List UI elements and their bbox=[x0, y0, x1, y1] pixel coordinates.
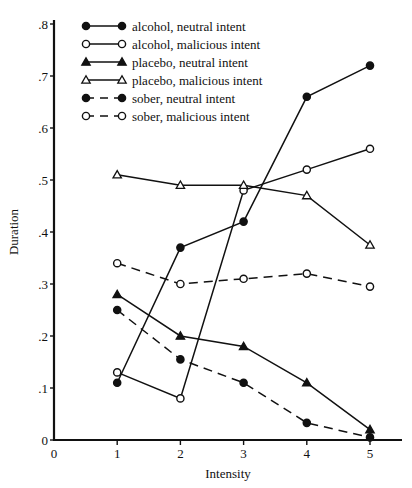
legend-label: alcohol, malicious intent bbox=[132, 37, 261, 52]
filled-triangle-marker-icon bbox=[303, 379, 311, 386]
y-tick-label: .8 bbox=[38, 17, 48, 32]
filled-circle-marker-icon bbox=[366, 434, 373, 441]
filled-circle-marker-icon bbox=[82, 22, 89, 29]
x-axis-title: Intensity bbox=[205, 466, 251, 481]
open-circle-marker-icon bbox=[114, 369, 121, 376]
legend-label: sober, malicious intent bbox=[132, 109, 250, 124]
series-line bbox=[117, 310, 370, 437]
legend-item: placebo, neutral intent bbox=[82, 55, 248, 70]
series-line bbox=[117, 294, 370, 429]
series-sober-malicious-intent bbox=[114, 260, 374, 291]
open-circle-marker-icon bbox=[366, 145, 373, 152]
filled-circle-marker-icon bbox=[177, 244, 184, 251]
x-tick-label: 5 bbox=[367, 446, 374, 461]
series-placebo-neutral-intent bbox=[113, 290, 374, 433]
open-circle-marker-icon bbox=[82, 112, 89, 119]
x-tick-label: 0 bbox=[51, 446, 58, 461]
legend-item: sober, malicious intent bbox=[82, 109, 250, 124]
x-tick-label: 2 bbox=[177, 446, 184, 461]
y-tick-label: .4 bbox=[38, 225, 48, 240]
open-circle-marker-icon bbox=[118, 112, 125, 119]
filled-circle-marker-icon bbox=[366, 62, 373, 69]
filled-circle-marker-icon bbox=[240, 218, 247, 225]
filled-circle-marker-icon bbox=[114, 379, 121, 386]
filled-circle-marker-icon bbox=[240, 379, 247, 386]
open-circle-marker-icon bbox=[303, 166, 310, 173]
filled-triangle-marker-icon bbox=[113, 290, 121, 297]
y-tick-label: .3 bbox=[38, 277, 48, 292]
y-tick-label: .2 bbox=[38, 329, 48, 344]
filled-circle-marker-icon bbox=[303, 93, 310, 100]
filled-circle-marker-icon bbox=[303, 419, 310, 426]
y-axis-title: Duration bbox=[6, 208, 21, 255]
legend-item: placebo, malicious intent bbox=[82, 73, 263, 88]
y-tick-label: .1 bbox=[38, 381, 48, 396]
x-tick-label: 1 bbox=[114, 446, 121, 461]
legend-label: sober, neutral intent bbox=[132, 91, 235, 106]
open-circle-marker-icon bbox=[303, 270, 310, 277]
open-circle-marker-icon bbox=[114, 260, 121, 267]
open-circle-marker-icon bbox=[118, 40, 125, 47]
legend-label: placebo, malicious intent bbox=[132, 73, 263, 88]
x-tick-label: 4 bbox=[304, 446, 311, 461]
open-circle-marker-icon bbox=[240, 275, 247, 282]
filled-triangle-marker-icon bbox=[176, 332, 184, 339]
series-sober-neutral-intent bbox=[114, 306, 374, 441]
y-tick-label: 0 bbox=[42, 433, 49, 448]
legend-item: sober, neutral intent bbox=[82, 91, 235, 106]
legend-label: placebo, neutral intent bbox=[132, 55, 248, 70]
open-triangle-marker-icon bbox=[113, 171, 121, 178]
filled-circle-marker-icon bbox=[114, 306, 121, 313]
legend-item: alcohol, neutral intent bbox=[82, 19, 246, 34]
open-circle-marker-icon bbox=[177, 280, 184, 287]
legend-item: alcohol, malicious intent bbox=[82, 37, 260, 52]
series-placebo-malicious-intent bbox=[113, 171, 374, 249]
y-tick-label: .7 bbox=[38, 69, 48, 84]
x-tick-label: 3 bbox=[240, 446, 247, 461]
legend-label: alcohol, neutral intent bbox=[132, 19, 246, 34]
legend: alcohol, neutral intentalcohol, maliciou… bbox=[82, 19, 263, 124]
filled-circle-marker-icon bbox=[177, 356, 184, 363]
open-circle-marker-icon bbox=[177, 395, 184, 402]
open-circle-marker-icon bbox=[366, 283, 373, 290]
line-chart: 0.1.2.3.4.5.6.7.8012345 alcohol, neutral… bbox=[0, 0, 412, 488]
filled-circle-marker-icon bbox=[118, 22, 125, 29]
filled-circle-marker-icon bbox=[118, 94, 125, 101]
y-tick-label: .6 bbox=[38, 121, 48, 136]
open-circle-marker-icon bbox=[82, 40, 89, 47]
y-tick-label: .5 bbox=[38, 173, 48, 188]
filled-circle-marker-icon bbox=[82, 94, 89, 101]
